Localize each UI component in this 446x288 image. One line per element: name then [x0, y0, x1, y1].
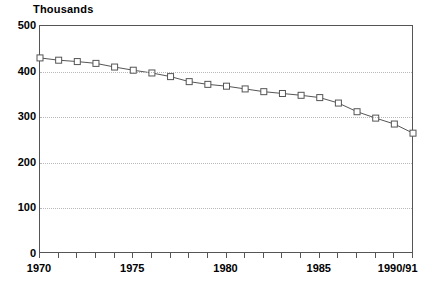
x-tick-1984: [300, 253, 301, 258]
gridline-y-100: [40, 208, 412, 209]
x-tick-1987: [356, 253, 357, 258]
data-point-1972: [74, 59, 80, 65]
x-tick-1986: [337, 253, 338, 258]
data-point-1983: [279, 90, 285, 96]
data-point-1990/91: [410, 130, 416, 136]
data-series-layer: [40, 26, 414, 254]
gridline-y-400: [40, 72, 412, 73]
x-tick-1971: [58, 253, 59, 258]
y-tick-label-500: 500: [2, 19, 36, 31]
x-tick-1988: [375, 253, 376, 258]
line-chart: Thousands 0100200300400500 1970197519801…: [0, 0, 446, 288]
x-tick-1972: [76, 253, 77, 258]
x-tick-1970: [39, 253, 40, 258]
series-markers-total: [37, 55, 416, 136]
y-tick-label-400: 400: [2, 65, 36, 77]
data-point-1984: [298, 92, 304, 98]
data-point-1981: [242, 86, 248, 92]
x-tick-1990/91: [412, 253, 413, 258]
x-tick-1977: [170, 253, 171, 258]
gridline-y-300: [40, 117, 412, 118]
data-point-1980: [224, 83, 230, 89]
x-tick-1976: [151, 253, 152, 258]
data-point-1971: [56, 57, 62, 63]
data-point-1987: [354, 109, 360, 115]
x-tick-1981: [244, 253, 245, 258]
y-tick-label-200: 200: [2, 156, 36, 168]
x-tick-1979: [207, 253, 208, 258]
data-point-1973: [93, 60, 99, 66]
data-point-1986: [335, 100, 341, 106]
y-tick-label-100: 100: [2, 201, 36, 213]
x-tick-label-1985: 1985: [307, 262, 331, 274]
x-tick-1983: [281, 253, 282, 258]
x-tick-label-1970: 1970: [27, 262, 51, 274]
data-point-1979: [205, 81, 211, 87]
x-tick-label-1990/91: 1990/91: [378, 262, 418, 274]
gridline-y-200: [40, 163, 412, 164]
data-point-1982: [261, 89, 267, 95]
x-tick-label-1975: 1975: [120, 262, 144, 274]
x-tick-label-1980: 1980: [213, 262, 237, 274]
x-tick-1974: [114, 253, 115, 258]
y-tick-label-0: 0: [2, 247, 36, 259]
data-point-1974: [112, 64, 118, 70]
x-tick-1975: [132, 253, 133, 258]
data-point-1989: [391, 121, 397, 127]
x-tick-1989: [393, 253, 394, 258]
series-line-total: [40, 58, 413, 133]
data-point-1970: [37, 55, 43, 61]
data-point-1977: [168, 74, 174, 80]
data-point-1985: [317, 95, 323, 101]
x-tick-1978: [188, 253, 189, 258]
y-tick-label-300: 300: [2, 110, 36, 122]
x-tick-1973: [95, 253, 96, 258]
chart-title: Thousands: [33, 3, 93, 15]
x-tick-1985: [319, 253, 320, 258]
plot-area: [39, 25, 413, 253]
x-tick-1982: [263, 253, 264, 258]
x-tick-1980: [226, 253, 227, 258]
data-point-1978: [186, 79, 192, 85]
y-axis-tick-labels: 0100200300400500: [0, 0, 36, 288]
